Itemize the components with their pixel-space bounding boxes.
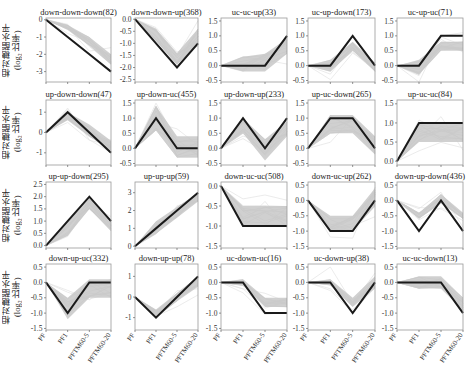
y-tick-label: 1.0 — [384, 119, 394, 128]
y-tick-label: -3 — [36, 67, 42, 76]
y-tick-label: 0.5 — [208, 129, 218, 138]
y-tick-label: -0.5 — [293, 159, 305, 168]
x-tick-label: PF — [212, 331, 223, 342]
y-tick-label: -2 — [36, 50, 42, 59]
y-tick-label: 0.5 — [384, 263, 394, 272]
y-tick-label: 1.5 — [384, 99, 394, 108]
panel-up-uc-uc84: up-uc-uc(84)1.51.00.50.0 — [384, 89, 463, 167]
panel-title: down-down-down(82) — [40, 7, 117, 17]
y-tick-label: 1.5 — [295, 99, 305, 108]
y-tick-label: 0.5 — [295, 263, 305, 272]
y-tick-label: -0.5 — [120, 27, 132, 36]
y-tick-label: 0.5 — [295, 181, 305, 190]
panel-down-down-down82: down-down-down(82)0-1-2-3 — [36, 7, 117, 84]
y-tick-label: -1 — [36, 148, 42, 157]
y-tick-label: 1.5 — [295, 17, 305, 26]
panel-uc-down-uc16: uc-down-uc(16)0.50.0-0.5-1.0-1.5PFPF1PFT… — [206, 253, 289, 365]
y-tick-label: -0.5 — [382, 211, 394, 220]
panel-title: down-up-up(78) — [139, 253, 195, 263]
panel-title: up-uc-uc(84) — [408, 89, 453, 99]
panel-title: up-down-uc(455) — [137, 89, 197, 99]
panel-up-up-down295: up-up-down(295)2.52.01.51.00.50.0 — [33, 171, 111, 250]
y-tick-label: 0.0 — [208, 144, 218, 153]
x-tick-label: PF — [126, 331, 137, 342]
y-tick-label: 1 — [128, 272, 132, 281]
y-tick-label: -0.5 — [293, 211, 305, 220]
y-label-line2: (log₂ 比率) — [12, 195, 22, 235]
y-tick-label: 1 — [128, 224, 132, 233]
x-tick-label: PFTM60-5 — [330, 331, 355, 361]
panel-title: uc-down-up(38) — [314, 253, 369, 263]
y-tick-label: 0 — [39, 15, 43, 24]
panel-down-up-uc332: down-up-uc(332)0.50.0-0.5-1.0-1.5PFPF1PF… — [31, 253, 113, 365]
cluster-profile-figure: down-down-down(82)0-1-2-3down-down-up(36… — [0, 0, 470, 376]
panel-title: down-down-up(368) — [131, 7, 202, 17]
y-tick-label: 0.5 — [122, 129, 132, 138]
y-tick-label: -0.5 — [293, 293, 305, 302]
y-label-line1: 相对糖酯水平 — [2, 23, 12, 77]
panel-title: up-up-up(59) — [144, 171, 189, 181]
panel-title: up-down-down(47) — [45, 89, 111, 99]
y-tick-label: -2.0 — [120, 63, 132, 72]
y-tick-label: 0.0 — [122, 15, 132, 24]
y-tick-label: 0.0 — [295, 278, 305, 287]
y-tick-label: 1.5 — [122, 99, 132, 108]
y-tick-label: 0.0 — [208, 182, 218, 191]
y-tick-label: 0.5 — [295, 46, 305, 55]
row-2-y-axis-label: 相对糖酯水平 (log₂ 比率) — [2, 100, 36, 165]
y-tick-label: 0.0 — [208, 61, 218, 70]
y-tick-label: -0.5 — [206, 159, 218, 168]
y-tick-label: 0.5 — [208, 46, 218, 55]
panel-down-down-up368: down-down-up(368)0.0-0.5-1.0-1.5-2.0-2.5 — [120, 7, 202, 84]
panel-title: down-up-down(436) — [395, 171, 466, 181]
panel-title: uc-uc-up(33) — [232, 7, 277, 17]
y-tick-label: -1.0 — [120, 39, 132, 48]
y-tick-label: -0.5 — [293, 76, 305, 85]
y-tick-label: 1.0 — [208, 31, 218, 40]
panel-title: down-uc-uc(508) — [224, 171, 283, 181]
y-tick-label: 0.5 — [384, 46, 394, 55]
y-tick-label: -0.5 — [382, 76, 394, 85]
panel-up-down-down47: up-down-down(47)10-1 — [36, 89, 111, 167]
panel-title: uc-down-uc(16) — [227, 253, 282, 263]
y-tick-label: -1.0 — [293, 227, 305, 236]
x-tick-label: PF — [388, 331, 399, 342]
x-tick-label: PF1 — [145, 331, 158, 345]
y-tick-label: 0.5 — [384, 181, 394, 190]
row-3-y-axis-label: 相对糖酯水平 (log₂ 比率) — [2, 182, 36, 248]
panel-down-up-down436: down-up-down(436)0.50.0-0.5-1.0-1.5 — [382, 171, 466, 251]
y-tick-label: 0.0 — [384, 196, 394, 205]
y-tick-label: 1.0 — [295, 31, 305, 40]
y-tick-label: -1 — [125, 313, 131, 322]
y-tick-label: 0.0 — [295, 61, 305, 70]
y-tick-label: -0.5 — [382, 293, 394, 302]
y-tick-label: 3 — [128, 188, 132, 197]
y-tick-label: 0.0 — [384, 61, 394, 70]
y-label-line1: 相对糖酯水平 — [2, 270, 12, 324]
y-tick-label: -1.5 — [206, 242, 218, 251]
panel-up-down-up233: up-down-up(233)1.51.00.50.0-0.5 — [206, 89, 287, 168]
panel-uc-uc-down13: uc-uc-down(13)0.50.0-0.5-1.0-1.5PFPF1PFT… — [382, 253, 465, 365]
y-label-line2: (log₂ 比率) — [12, 113, 22, 153]
y-label-line1: 相对糖酯水平 — [2, 106, 12, 160]
y-tick-label: 1.5 — [208, 99, 218, 108]
x-tick-label: PF1 — [56, 331, 69, 345]
panel-title: uc-uc-down(13) — [403, 253, 458, 263]
y-tick-label: 0.5 — [295, 129, 305, 138]
y-label-line2: (log₂ 比率) — [12, 30, 22, 70]
y-tick-label: -0.5 — [206, 293, 218, 302]
y-tick-label: -1.0 — [206, 222, 218, 231]
panel-up-uc-down265: up-uc-down(265)1.51.00.50.0-0.5 — [293, 89, 375, 168]
y-tick-label: 0.5 — [208, 263, 218, 272]
y-label-line2: (log₂ 比率) — [12, 277, 22, 317]
y-tick-label: -1.5 — [120, 51, 132, 60]
panel-up-down-uc455: up-down-uc(455)1.51.00.50.0-0.5 — [120, 89, 198, 168]
panel-title: up-down-up(233) — [224, 89, 284, 99]
y-tick-label: -1.0 — [293, 309, 305, 318]
panel-title: down-up-uc(332) — [49, 253, 109, 263]
y-tick-label: 2 — [128, 206, 132, 215]
row-1-y-axis-label: 相对糖酯水平 (log₂ 比率) — [2, 18, 36, 82]
panel-title: up-up-down(295) — [49, 171, 109, 181]
panel-down-uc-up262: down-uc-up(262)0.50.0-0.5-1.0-1.5 — [293, 171, 375, 251]
y-tick-label: 0.0 — [384, 278, 394, 287]
